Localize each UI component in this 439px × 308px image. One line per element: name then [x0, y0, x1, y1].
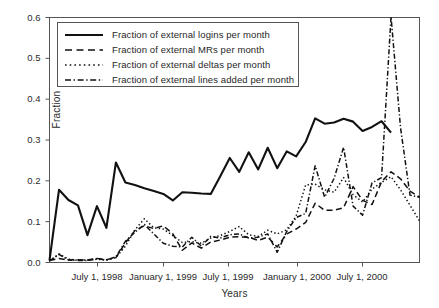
y-axis-tick-label: 0.4	[11, 93, 41, 104]
x-axis-tick-label: July 1, 1999	[202, 271, 253, 282]
x-axis-tick-label: July 1, 2000	[336, 271, 387, 282]
legend-swatch-dotted-icon	[64, 59, 104, 71]
legend-swatch-solid-icon	[64, 29, 104, 41]
y-axis-tick-label: 0.2	[11, 175, 41, 186]
series-line-dashed	[50, 172, 420, 261]
x-axis-tick-label: July 1, 1998	[71, 271, 122, 282]
legend-label-mrs: Fraction of external MRs per month	[112, 44, 264, 55]
legend-item-lines-added: Fraction of external lines added per mon…	[64, 72, 294, 87]
y-axis-tick-label: 0.1	[11, 216, 41, 227]
y-axis-ticks	[46, 18, 50, 263]
y-axis-tick-label: 0.5	[11, 52, 41, 63]
y-axis-tick-label: 0.3	[11, 134, 41, 145]
legend-item-deltas: Fraction of external deltas per month	[64, 57, 270, 72]
y-axis-tick-label: 0.0	[11, 257, 41, 268]
legend-item-mrs: Fraction of external MRs per month	[64, 42, 264, 57]
x-axis-tick-label: January 1, 2000	[263, 271, 331, 282]
chart-legend: Fraction of external logins per month Fr…	[57, 22, 299, 87]
x-axis-title: Years	[49, 288, 420, 299]
legend-label-logins: Fraction of external logins per month	[112, 29, 270, 40]
x-axis-tick-label: January 1, 1999	[129, 271, 197, 282]
legend-swatch-dashdot-icon	[64, 74, 104, 86]
chart-figure: Fraction Years 0.00.10.20.30.40.50.6 Jul…	[0, 0, 439, 308]
legend-swatch-dashed-icon	[64, 44, 104, 56]
series-line-dotted	[50, 177, 420, 261]
legend-label-lines-added: Fraction of external lines added per mon…	[112, 74, 294, 85]
series-line-solid	[50, 118, 392, 260]
legend-label-deltas: Fraction of external deltas per month	[112, 59, 270, 70]
y-axis-tick-label: 0.6	[11, 12, 41, 23]
x-axis-ticks	[98, 263, 363, 267]
legend-item-logins: Fraction of external logins per month	[64, 27, 270, 42]
